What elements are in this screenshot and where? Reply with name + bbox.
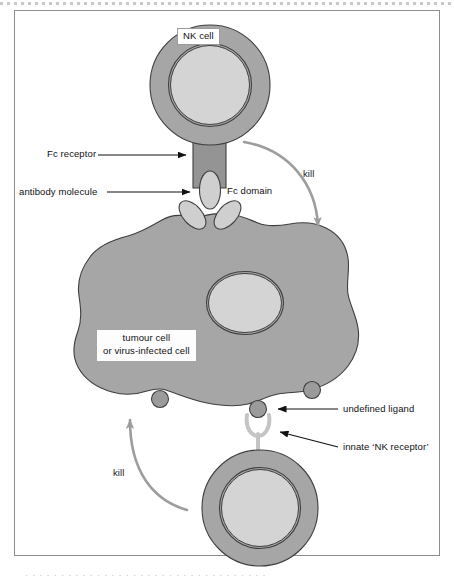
antibody-fc-domain: [200, 171, 221, 209]
label-tumour-cell-line1: tumour cell: [103, 332, 190, 345]
undefined-ligand-center: [250, 401, 267, 418]
label-tumour-cell-line2: or virus-infected cell: [103, 345, 190, 358]
label-fc-domain: Fc domain: [227, 185, 272, 197]
label-nk-cell: NK cell: [177, 28, 220, 45]
label-innate-nk-receptor: innate ‘NK receptor’: [343, 441, 429, 453]
undefined-ligand-left: [152, 391, 169, 408]
label-tumour-cell: tumour cell or virus-infected cell: [97, 330, 196, 361]
label-kill-left: kill: [113, 467, 124, 479]
target-cell-nucleus: [209, 274, 282, 333]
figure-root: NK cell Fc receptor antibody molecule Fc…: [0, 0, 454, 581]
nk-cell-diagram: [0, 0, 454, 581]
label-kill-right: kill: [303, 168, 314, 180]
label-fc-receptor: Fc receptor: [47, 148, 96, 160]
nk-cell-bottom-nucleus: [222, 470, 299, 547]
nk-cell-top-nucleus: [171, 46, 250, 125]
page-caption-fragment: . . . . . . . . . . . . . . . . . . . . …: [0, 567, 454, 581]
label-antibody-molecule: antibody molecule: [19, 186, 97, 198]
label-undefined-ligand: undefined ligand: [343, 403, 414, 415]
undefined-ligand-right: [304, 382, 321, 399]
